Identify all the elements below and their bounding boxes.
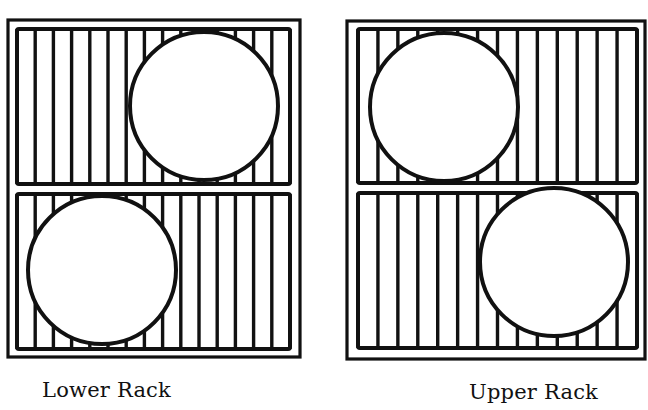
plate-circle [480,188,628,336]
lower-rack-figure [8,20,300,357]
plate-circle [28,196,176,344]
lower-rack-label: Lower Rack [42,378,171,402]
rack-panel-bottom [358,188,637,348]
rack-panel-top [358,29,637,183]
plate-circle [370,33,518,181]
upper-rack-figure [347,21,645,359]
upper-rack-label: Upper Rack [469,380,598,404]
rack-panel-top [17,29,290,184]
rack-diagram [0,0,648,410]
rack-panel-bottom [17,194,290,349]
plate-circle [130,32,278,180]
